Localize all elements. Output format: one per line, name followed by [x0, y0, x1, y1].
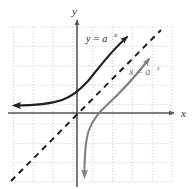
curve-inverse-exponential-label: x = a y [128, 64, 161, 77]
x-axis-label: x [180, 107, 186, 119]
curve-exponential [16, 37, 127, 106]
exponential-inverse-graph-figure: y x y = a x x = a y [0, 0, 193, 189]
curve-exponential-label-base: y = a [85, 33, 107, 44]
curve-inverse-exponential-label-base: x = a [128, 66, 150, 77]
y-axis-label: y [71, 5, 77, 17]
curve-inverse-exponential-label-exponent: y [156, 64, 161, 72]
curve-exponential-label-exponent: x [113, 31, 118, 39]
graph-canvas: y x y = a x x = a y [0, 0, 193, 189]
